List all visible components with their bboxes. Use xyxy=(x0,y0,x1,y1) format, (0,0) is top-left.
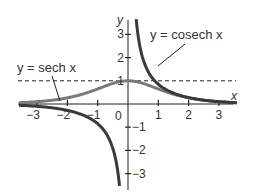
hyperbolic-functions-chart: −3−2−1123−3−2−1123 x y 0 y = sech x y = … xyxy=(0,0,254,194)
axes xyxy=(18,20,236,190)
x-tick-label: 1 xyxy=(155,108,162,122)
y-tick-label: −2 xyxy=(132,143,146,157)
x-axis-label: x xyxy=(230,89,238,103)
y-tick-label: 1 xyxy=(117,74,124,88)
cosech-annotation: y = cosech x xyxy=(150,27,223,42)
x-tick-label: −3 xyxy=(26,108,40,122)
y-tick-label: −1 xyxy=(132,120,146,134)
y-tick-label: −3 xyxy=(132,167,146,181)
y-axis-label: y xyxy=(116,13,124,27)
origin-label: 0 xyxy=(115,109,122,123)
cosech-pointer xyxy=(158,44,185,66)
x-tick-label: −1 xyxy=(87,108,101,122)
x-tick-label: −2 xyxy=(57,108,71,122)
sech-pointer xyxy=(52,76,60,101)
y-tick-label: 2 xyxy=(117,51,124,65)
y-tick-label: 3 xyxy=(117,27,124,41)
x-tick-label: 2 xyxy=(185,108,192,122)
x-tick-label: 3 xyxy=(216,108,223,122)
sech-annotation: y = sech x xyxy=(17,60,76,75)
